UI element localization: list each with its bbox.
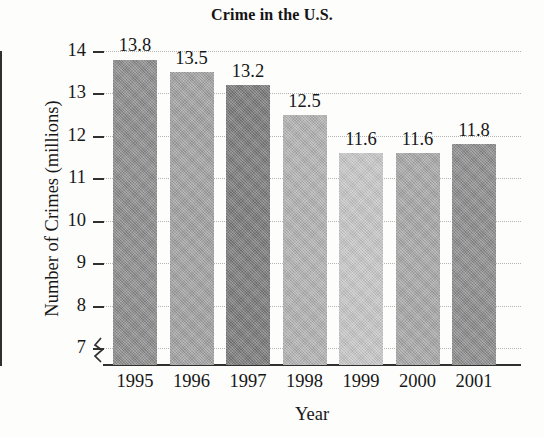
y-tick-label: 13 [52,83,86,102]
bar-value-label: 11.6 [331,130,391,149]
bar-value-label: 13.2 [218,62,278,81]
bar-value-label: 12.5 [275,92,335,111]
y-tick-label: 10 [52,211,86,230]
y-axis-line [0,51,2,366]
x-tick-label: 2001 [442,372,506,391]
x-tick-label: 1997 [216,372,280,391]
y-tick-label: 9 [52,253,86,272]
bar [339,153,383,365]
bar [452,144,496,365]
x-tick-label: 1995 [103,372,167,391]
y-tick-label: 12 [52,126,86,145]
x-tick-label: 1999 [329,372,393,391]
y-tick-label: 7 [52,338,86,357]
y-tick-label: 11 [52,168,86,187]
chart-figure: Crime in the U.S. Number of Crimes (mill… [0,0,544,437]
x-tick-label: 2000 [386,372,450,391]
bar [283,115,327,365]
bar [226,85,270,365]
bar-value-label: 11.6 [388,130,448,149]
x-tick-label: 1998 [273,372,337,391]
bar [170,72,214,365]
y-tick-label: 14 [52,41,86,60]
x-axis-title: Year [103,404,521,425]
y-tick-label: 8 [52,296,86,315]
bar [113,60,157,366]
bar-value-label: 13.5 [162,49,222,68]
bar-value-label: 13.8 [105,36,165,55]
x-tick-label: 1996 [160,372,224,391]
bar-value-label: 11.8 [444,121,504,140]
bar [396,153,440,365]
